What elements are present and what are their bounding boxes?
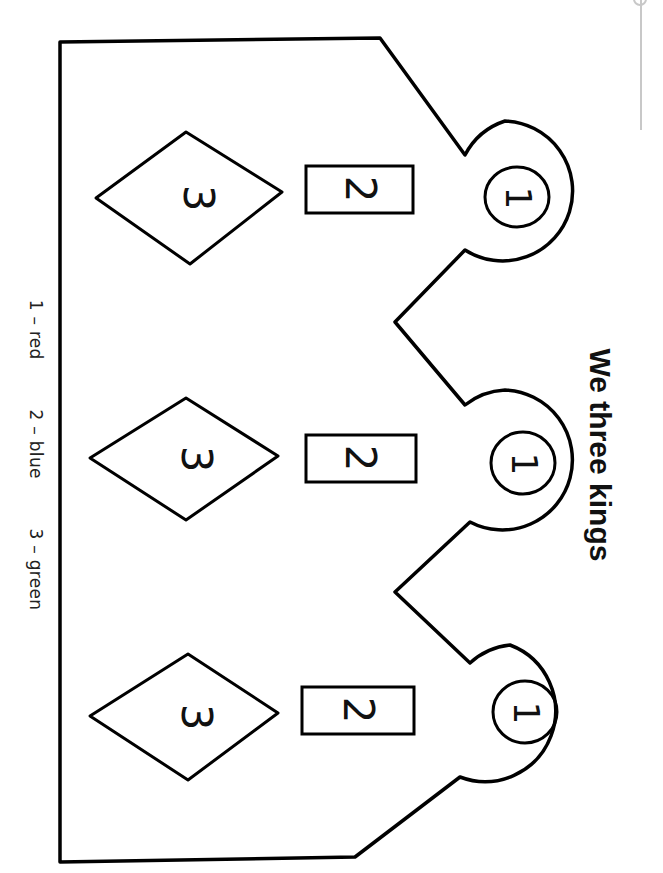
diamond-number-3: 3 bbox=[175, 704, 217, 731]
color-by-number-worksheet: 1 1 1 2 2 2 3 3 3 We three kings 1 – red… bbox=[0, 0, 663, 873]
key-item-blue: 2 – blue bbox=[26, 409, 46, 478]
circle-number-3: 1 bbox=[508, 702, 544, 725]
key-item-red: 1 – red bbox=[26, 300, 46, 360]
circle-number-1: 1 bbox=[500, 187, 536, 210]
crown-outline bbox=[0, 0, 663, 873]
circle-number-2: 1 bbox=[506, 453, 542, 476]
rect-number-3: 2 bbox=[337, 697, 379, 724]
diamond-number-1: 3 bbox=[177, 185, 219, 212]
page-title: We three kings bbox=[583, 349, 617, 562]
rect-number-1: 2 bbox=[339, 176, 381, 203]
rect-number-2: 2 bbox=[339, 445, 381, 472]
key-item-green: 3 – green bbox=[26, 528, 46, 610]
diamond-number-2: 3 bbox=[175, 446, 217, 473]
scrollbar[interactable] bbox=[640, 0, 642, 130]
color-key: 1 – red 2 – blue 3 – green bbox=[26, 278, 46, 633]
